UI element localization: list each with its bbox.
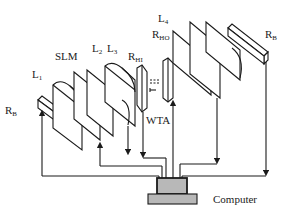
label-slm: SLM bbox=[55, 50, 78, 62]
label-rhi: RHI bbox=[128, 50, 143, 64]
optical-setup-diagram: RB L1 SLM L2 L3 RHI WTA RHO L4 RB Comput… bbox=[0, 0, 289, 216]
label-l2: L2 bbox=[92, 42, 103, 56]
label-wta: WTA bbox=[146, 114, 170, 126]
label-l4: L4 bbox=[158, 12, 169, 26]
label-l3: L3 bbox=[107, 42, 118, 56]
rhi-detector bbox=[137, 65, 147, 112]
wta-connections bbox=[150, 80, 160, 92]
label-rb-left: RB bbox=[5, 104, 17, 118]
label-rb-right: RB bbox=[265, 28, 277, 42]
label-rho: RHO bbox=[152, 28, 169, 42]
computer bbox=[148, 178, 197, 204]
rho-detector bbox=[163, 58, 173, 102]
label-computer: Computer bbox=[213, 193, 257, 205]
label-l1: L1 bbox=[32, 68, 43, 82]
